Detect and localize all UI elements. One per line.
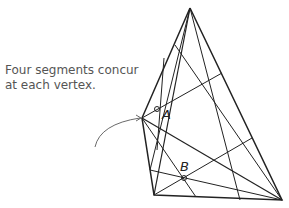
caption: Four segments concur at each vertex. (5, 63, 139, 93)
caption-line1: Four segments concur (5, 63, 139, 78)
tetrahedron-figure (0, 0, 289, 208)
arrow-pointer (95, 118, 140, 147)
diagram: Four segments concur at each vertex. A B (0, 0, 289, 208)
caption-line2: at each vertex. (5, 78, 139, 93)
label-a: A (162, 107, 171, 122)
label-b: B (180, 159, 189, 174)
